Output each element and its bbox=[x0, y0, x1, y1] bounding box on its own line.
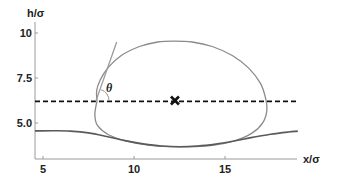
x-tick-label-15: 15 bbox=[219, 163, 231, 175]
x-tick-label-10: 10 bbox=[128, 163, 140, 175]
y-tick-label-5: 5.0 bbox=[17, 117, 32, 129]
theta-label: θ bbox=[106, 81, 113, 95]
droplet-contour bbox=[95, 41, 267, 147]
substrate-interface bbox=[35, 131, 298, 147]
x-tick-label-5: 5 bbox=[40, 163, 46, 175]
x-axis-label: x/σ bbox=[303, 153, 320, 165]
y-axis-label: h/σ bbox=[27, 7, 45, 19]
series-layer bbox=[35, 41, 298, 147]
y-tick-label-10: 10 bbox=[20, 27, 32, 39]
y-tick-label-7-5: 7.5 bbox=[17, 72, 32, 84]
droplet-chart: 10 7.5 5.0 5 10 15 h/σ x/σ θ bbox=[0, 0, 337, 182]
